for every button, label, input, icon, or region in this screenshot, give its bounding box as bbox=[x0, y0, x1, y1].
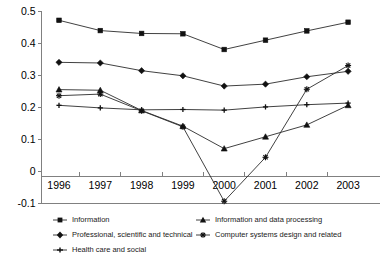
legend-item-information[interactable]: Information bbox=[52, 214, 192, 226]
chart-figure: -0.100.10.20.30.40.519961997199819992000… bbox=[0, 0, 389, 263]
legend-item-professional[interactable]: Professional, scientific and technical bbox=[52, 229, 192, 241]
legend-item-health-care[interactable]: Health care and social bbox=[52, 244, 192, 256]
data-point-marker bbox=[222, 47, 227, 52]
legend-label-health-care: Health care and social bbox=[72, 245, 146, 255]
legend-item-information-data-processing[interactable]: Information and data processing bbox=[195, 214, 341, 226]
series-group bbox=[56, 59, 351, 89]
y-tick-label: 0.4 bbox=[21, 37, 36, 49]
series-group bbox=[56, 100, 350, 112]
legend-item-computer-systems[interactable]: Computer systems design and related bbox=[195, 229, 341, 241]
x-tick-label: 1997 bbox=[89, 179, 113, 191]
legend-marker-plus-icon bbox=[52, 245, 68, 255]
data-point-marker bbox=[304, 74, 310, 80]
data-point-marker bbox=[57, 18, 62, 23]
data-point-marker bbox=[222, 108, 227, 113]
data-point-marker bbox=[180, 107, 185, 112]
data-point-marker bbox=[56, 93, 62, 99]
data-point-marker bbox=[263, 104, 268, 109]
x-tick-label: 1999 bbox=[171, 179, 195, 191]
series-line bbox=[59, 90, 348, 149]
data-point-marker bbox=[304, 102, 309, 107]
x-tick-label: 2001 bbox=[254, 179, 278, 191]
y-tick-label: 0.2 bbox=[21, 101, 36, 113]
legend-label-information-data-processing: Information and data processing bbox=[215, 215, 322, 225]
legend-label-computer-systems: Computer systems design and related bbox=[215, 230, 341, 240]
legend-label-information: Information bbox=[72, 215, 110, 225]
data-point-marker bbox=[98, 28, 103, 33]
data-point-marker bbox=[346, 20, 351, 25]
data-point-marker bbox=[180, 124, 186, 130]
data-point-marker bbox=[56, 103, 61, 108]
data-point-marker bbox=[263, 154, 269, 160]
data-point-marker bbox=[304, 122, 310, 127]
series-line bbox=[59, 62, 348, 86]
data-point-marker bbox=[180, 73, 186, 79]
legend-marker-square-icon bbox=[52, 215, 68, 225]
x-tick-label: 2002 bbox=[295, 179, 319, 191]
data-point-marker bbox=[221, 83, 227, 89]
y-tick-label: 0.1 bbox=[21, 133, 36, 145]
x-tick-label: 1996 bbox=[47, 179, 71, 191]
y-tick-label: 0 bbox=[30, 165, 36, 177]
data-point-marker bbox=[221, 198, 227, 204]
data-point-marker bbox=[181, 31, 186, 36]
data-point-marker bbox=[139, 68, 145, 74]
data-point-marker bbox=[262, 81, 268, 87]
data-point-marker bbox=[345, 68, 351, 74]
data-point-marker bbox=[98, 105, 103, 110]
y-tick-label: -0.1 bbox=[17, 197, 35, 209]
x-tick-label: 2000 bbox=[213, 179, 237, 191]
series-group bbox=[57, 18, 351, 52]
legend-marker-star-icon bbox=[195, 230, 211, 240]
legend-marker-diamond-icon bbox=[52, 230, 68, 240]
legend-marker-triangle-icon bbox=[195, 215, 211, 225]
data-point-marker bbox=[305, 29, 310, 34]
legend-column-right: Information and data processing Computer… bbox=[195, 214, 341, 244]
data-point-marker bbox=[345, 63, 351, 69]
data-point-marker bbox=[263, 38, 268, 43]
data-point-marker bbox=[139, 31, 144, 36]
x-tick-label: 2003 bbox=[336, 179, 360, 191]
data-point-marker bbox=[56, 59, 62, 65]
y-tick-label: 0.5 bbox=[21, 5, 36, 17]
data-point-marker bbox=[304, 86, 310, 92]
data-point-marker bbox=[97, 91, 103, 97]
y-tick-label: 0.3 bbox=[21, 69, 36, 81]
x-tick-label: 1998 bbox=[130, 179, 154, 191]
series-line bbox=[59, 20, 348, 49]
data-point-marker bbox=[139, 108, 145, 114]
chart-legend: Information Professional, scientific and… bbox=[52, 214, 389, 260]
legend-label-professional: Professional, scientific and technical bbox=[72, 230, 192, 240]
legend-column-left: Information Professional, scientific and… bbox=[52, 214, 192, 259]
data-point-marker bbox=[97, 60, 103, 66]
